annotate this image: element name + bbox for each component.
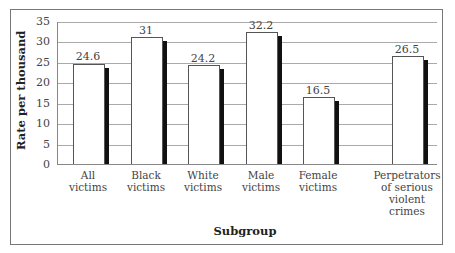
value-label: 32.2 — [241, 19, 281, 32]
bar — [188, 65, 220, 164]
x-axis-title: Subgroup — [195, 224, 295, 238]
y-tick-label: 20 — [20, 77, 50, 88]
value-label: 16.5 — [298, 84, 338, 97]
category-label: Perpetratorsof seriousviolentcrimes — [367, 169, 447, 217]
y-tick-label: 5 — [20, 139, 50, 150]
bar — [303, 97, 335, 164]
bar-shadow — [278, 36, 282, 164]
bar-shadow — [220, 69, 224, 164]
bar-shadow — [163, 41, 167, 164]
category-label-line: crimes — [367, 205, 447, 217]
value-label: 26.5 — [387, 43, 427, 56]
bar-shadow — [424, 60, 428, 164]
bar — [73, 64, 105, 165]
category-label-line: Female — [278, 169, 358, 181]
y-tick-label: 30 — [20, 36, 50, 47]
category-label-line: Perpetrators — [367, 169, 447, 181]
y-tick-label: 15 — [20, 98, 50, 109]
y-tick-label: 10 — [20, 118, 50, 129]
category-label: Femalevictims — [278, 169, 358, 193]
category-label-line: violent — [367, 193, 447, 205]
category-label-line: victims — [278, 181, 358, 193]
bar — [392, 56, 424, 164]
bar — [246, 32, 278, 164]
value-label: 24.2 — [183, 52, 223, 65]
value-label: 24.6 — [68, 50, 108, 63]
value-label: 31 — [126, 24, 166, 37]
bar-shadow — [335, 101, 339, 164]
bar-shadow — [105, 68, 109, 165]
y-tick-label: 25 — [20, 57, 50, 68]
bar — [131, 37, 163, 164]
category-label-line: of serious — [367, 181, 447, 193]
plot-area — [57, 22, 437, 165]
y-tick-label: 35 — [20, 16, 50, 27]
y-tick-label: 0 — [20, 159, 50, 170]
